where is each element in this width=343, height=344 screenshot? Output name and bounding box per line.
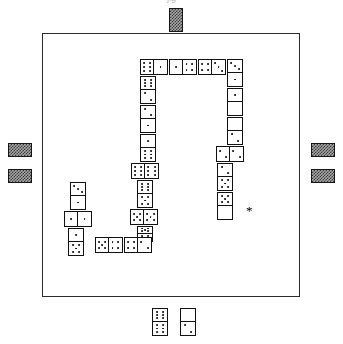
pip <box>101 244 103 246</box>
asterisk-marker: * <box>246 204 253 217</box>
pip <box>150 99 152 101</box>
domino-lower-left-1[interactable] <box>68 228 84 256</box>
pip <box>221 201 223 203</box>
pip <box>133 247 135 249</box>
pip <box>227 201 229 203</box>
pip <box>207 63 209 65</box>
train-marker-top[interactable] <box>169 8 183 32</box>
pip <box>234 94 236 96</box>
domino-left-3-half-a <box>141 135 155 148</box>
pip <box>156 331 158 333</box>
domino-bottom-1[interactable] <box>95 237 123 253</box>
domino-top-3-half-b <box>212 60 225 74</box>
domino-left-4-half-b <box>145 164 158 178</box>
pip <box>227 195 229 197</box>
pip <box>144 92 146 94</box>
pip <box>70 218 72 220</box>
pip <box>150 85 152 87</box>
domino-lower-left-3[interactable] <box>70 182 86 210</box>
pip <box>144 82 146 84</box>
pip <box>98 241 100 243</box>
pip <box>143 62 145 64</box>
train-marker-right-upper[interactable] <box>311 143 335 157</box>
domino-left-2-half-b <box>141 119 155 132</box>
domino-top-2-half-a <box>170 60 183 74</box>
pip <box>156 328 158 330</box>
domino-left-1[interactable] <box>140 76 156 104</box>
pip <box>175 66 177 68</box>
pip <box>139 213 141 215</box>
pip <box>141 203 143 205</box>
pip <box>149 70 151 72</box>
pip <box>234 65 236 67</box>
domino-left-7-half-a <box>138 227 152 234</box>
domino-left-4[interactable] <box>131 163 159 179</box>
pip <box>153 219 155 221</box>
domino-top-1-half-b <box>154 60 167 74</box>
top-caption-text: jig <box>0 0 343 3</box>
domino-bottom-2[interactable] <box>124 237 152 253</box>
domino-top-3-half-a <box>199 60 212 74</box>
domino-left-6[interactable] <box>130 209 158 225</box>
pip <box>104 241 106 243</box>
train-marker-right-lower[interactable] <box>311 169 335 183</box>
pip <box>72 244 74 246</box>
pip <box>134 174 136 176</box>
pip <box>147 174 149 176</box>
domino-right-1[interactable] <box>227 88 243 116</box>
pip <box>221 179 223 181</box>
train-marker-left-upper[interactable] <box>8 143 32 157</box>
pip <box>143 70 145 72</box>
domino-right-5[interactable] <box>217 192 233 220</box>
domino-game-screenshot: jig * <box>0 0 343 344</box>
pip <box>207 69 209 71</box>
pip <box>144 85 146 87</box>
domino-left-5-half-a <box>138 181 152 194</box>
domino-left-2[interactable] <box>140 105 156 133</box>
pip <box>144 150 146 152</box>
domino-lower-left-2[interactable] <box>64 211 92 227</box>
domino-right-3[interactable] <box>216 146 244 162</box>
pip <box>147 125 149 127</box>
domino-lower-left-2-half-b <box>78 212 91 226</box>
domino-top-4[interactable] <box>227 59 243 87</box>
pip <box>201 69 203 71</box>
pip <box>147 140 149 142</box>
pip <box>156 311 158 313</box>
pip <box>221 70 223 72</box>
pip <box>234 79 236 81</box>
pip <box>141 230 143 232</box>
pip <box>221 195 223 197</box>
pip <box>104 247 106 249</box>
domino-right-2[interactable] <box>227 117 243 145</box>
pip <box>141 183 143 185</box>
domino-outside-2[interactable] <box>180 308 196 336</box>
pip <box>127 241 129 243</box>
domino-left-3[interactable] <box>140 134 156 162</box>
pip <box>147 183 149 185</box>
pip <box>224 198 226 200</box>
pip <box>219 150 221 152</box>
domino-outside-1[interactable] <box>152 308 168 336</box>
domino-left-5[interactable] <box>137 180 153 208</box>
domino-outside-2-half-b <box>181 322 195 335</box>
domino-right-4[interactable] <box>217 163 233 191</box>
pip <box>133 213 135 215</box>
pip <box>98 247 100 249</box>
pip <box>140 241 142 243</box>
pip <box>147 186 149 188</box>
domino-top-2[interactable] <box>169 59 197 75</box>
domino-lower-left-3-half-b <box>71 196 85 209</box>
train-marker-left-lower[interactable] <box>8 169 32 183</box>
domino-left-1-half-a <box>141 77 155 90</box>
domino-top-4-half-a <box>228 60 242 73</box>
pip <box>150 154 152 156</box>
pip <box>150 157 152 159</box>
pip <box>150 114 152 116</box>
domino-right-3-half-b <box>230 147 243 161</box>
domino-top-1[interactable] <box>140 59 168 75</box>
pip <box>134 170 136 172</box>
pip <box>214 62 216 64</box>
domino-outside-1-half-a <box>153 309 167 322</box>
domino-top-3[interactable] <box>198 59 226 75</box>
